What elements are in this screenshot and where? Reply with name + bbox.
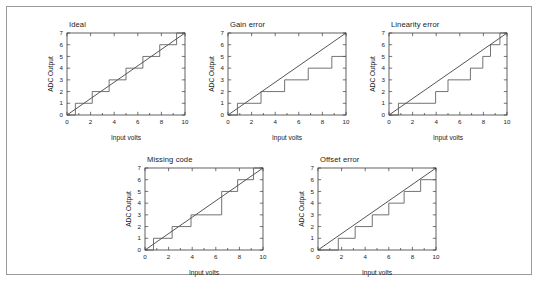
y-tick-label: 0 <box>311 246 315 253</box>
x-tick-label: 2 <box>250 118 254 125</box>
x-tick-label: 0 <box>387 118 391 125</box>
y-tick-label: 4 <box>382 64 386 71</box>
y-tick-label: 2 <box>382 88 386 95</box>
ideal-transfer-line <box>318 168 436 250</box>
x-tick-label: 8 <box>321 118 325 125</box>
x-tick-label: 4 <box>434 118 438 125</box>
y-tick-label: 0 <box>221 111 225 118</box>
y-tick-label: 3 <box>382 76 386 83</box>
y-tick-label: 3 <box>311 211 315 218</box>
x-tick-label: 2 <box>89 118 93 125</box>
x-tick-label: 8 <box>160 118 164 125</box>
y-axis-label: ADC Output <box>125 191 133 227</box>
x-tick-label: 10 <box>433 253 440 260</box>
x-tick-label: 6 <box>387 253 391 260</box>
x-tick-label: 8 <box>411 253 415 260</box>
x-tick-label: 10 <box>182 118 189 125</box>
y-tick-label: 7 <box>382 29 386 36</box>
x-tick-label: 4 <box>112 118 116 125</box>
ideal-transfer-line <box>389 33 507 115</box>
y-tick-label: 2 <box>60 88 64 95</box>
y-tick-label: 1 <box>138 234 142 241</box>
y-tick-label: 7 <box>221 29 225 36</box>
chart-panel-missing_code: Missing code024681001234567Input voltsAD… <box>119 155 269 280</box>
y-tick-label: 3 <box>60 76 64 83</box>
y-tick-label: 1 <box>311 234 315 241</box>
figure-border: Ideal024681001234567Input voltsADC Outpu… <box>6 6 532 275</box>
y-tick-label: 5 <box>221 53 225 60</box>
x-tick-label: 2 <box>167 253 171 260</box>
y-tick-label: 4 <box>311 199 315 206</box>
y-axis-label: ADC Output <box>47 56 55 92</box>
plot-area-ideal: 024681001234567Input voltsADC Output <box>41 20 191 145</box>
y-tick-label: 7 <box>311 164 315 171</box>
y-tick-label: 5 <box>138 188 142 195</box>
y-tick-label: 3 <box>221 76 225 83</box>
x-axis-label: Input volts <box>111 134 142 142</box>
y-axis-label: ADC Output <box>298 191 306 227</box>
x-tick-label: 4 <box>363 253 367 260</box>
x-tick-label: 2 <box>340 253 344 260</box>
x-axis-label: Input volts <box>272 134 303 142</box>
y-tick-label: 6 <box>311 176 315 183</box>
x-tick-label: 10 <box>343 118 350 125</box>
x-tick-label: 0 <box>316 253 320 260</box>
x-axis-label: Input volts <box>362 269 393 277</box>
adc-staircase <box>228 56 346 115</box>
y-tick-label: 6 <box>221 41 225 48</box>
y-tick-label: 0 <box>60 111 64 118</box>
y-tick-label: 6 <box>382 41 386 48</box>
y-axis-label: ADC Output <box>208 56 216 92</box>
plot-area-linearity_error: 024681001234567Input voltsADC Output <box>363 20 513 145</box>
plot-area-missing_code: 024681001234567Input voltsADC Output <box>119 155 269 280</box>
y-tick-label: 5 <box>60 53 64 60</box>
adc-staircase <box>318 180 436 250</box>
ideal-transfer-line <box>228 33 346 115</box>
y-tick-label: 0 <box>138 246 142 253</box>
y-tick-label: 7 <box>138 164 142 171</box>
x-tick-label: 10 <box>504 118 511 125</box>
y-tick-label: 4 <box>221 64 225 71</box>
y-tick-label: 1 <box>60 99 64 106</box>
y-tick-label: 2 <box>138 223 142 230</box>
x-tick-label: 4 <box>190 253 194 260</box>
y-tick-label: 5 <box>382 53 386 60</box>
chart-panel-linearity_error: Linearity error024681001234567Input volt… <box>363 20 513 145</box>
y-tick-label: 2 <box>221 88 225 95</box>
y-tick-label: 5 <box>311 188 315 195</box>
chart-panel-offset_error: Offset error024681001234567Input voltsAD… <box>292 155 442 280</box>
y-tick-label: 4 <box>138 199 142 206</box>
figure-canvas: Ideal024681001234567Input voltsADC Outpu… <box>0 0 539 283</box>
y-tick-label: 6 <box>138 176 142 183</box>
y-tick-label: 4 <box>60 64 64 71</box>
y-tick-label: 1 <box>382 99 386 106</box>
y-tick-label: 7 <box>60 29 64 36</box>
y-tick-label: 2 <box>311 223 315 230</box>
x-tick-label: 0 <box>143 253 147 260</box>
x-tick-label: 6 <box>214 253 218 260</box>
x-tick-label: 2 <box>411 118 415 125</box>
ideal-transfer-line <box>145 168 263 250</box>
y-tick-label: 6 <box>60 41 64 48</box>
x-tick-label: 4 <box>273 118 277 125</box>
y-axis-label: ADC Output <box>369 56 377 92</box>
x-tick-label: 10 <box>260 253 267 260</box>
x-tick-label: 6 <box>136 118 140 125</box>
x-axis-label: Input volts <box>433 134 464 142</box>
x-tick-label: 0 <box>65 118 69 125</box>
chart-panel-ideal: Ideal024681001234567Input voltsADC Outpu… <box>41 20 191 145</box>
plot-area-gain_error: 024681001234567Input voltsADC Output <box>202 20 352 145</box>
x-tick-label: 6 <box>458 118 462 125</box>
y-tick-label: 3 <box>138 211 142 218</box>
x-tick-label: 8 <box>482 118 486 125</box>
x-tick-label: 0 <box>226 118 230 125</box>
y-tick-label: 1 <box>221 99 225 106</box>
x-axis-label: Input volts <box>189 269 220 277</box>
plot-area-offset_error: 024681001234567Input voltsADC Output <box>292 155 442 280</box>
x-tick-label: 6 <box>297 118 301 125</box>
y-tick-label: 0 <box>382 111 386 118</box>
chart-panel-gain_error: Gain error024681001234567Input voltsADC … <box>202 20 352 145</box>
x-tick-label: 8 <box>238 253 242 260</box>
